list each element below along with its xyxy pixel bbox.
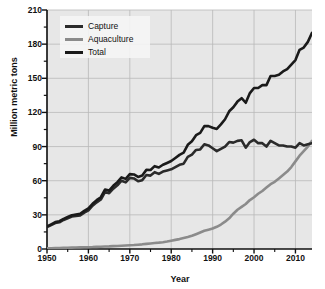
x-axis-label: Year (47, 274, 313, 284)
legend-swatch-total (65, 51, 83, 54)
legend-swatch-aquaculture (65, 38, 83, 41)
legend-item-aquaculture: Aquaculture (65, 33, 146, 45)
legend-item-total: Total (65, 46, 146, 58)
x-tick-1970: 1970 (120, 253, 139, 263)
legend-item-capture: Capture (65, 20, 146, 32)
x-tick-1980: 1980 (162, 253, 181, 263)
x-tick-2000: 2000 (245, 253, 264, 263)
x-tick-1990: 1990 (203, 253, 222, 263)
legend-label-aquaculture: Aquaculture (88, 34, 133, 44)
x-tick-2010: 2010 (286, 253, 305, 263)
plot-area (0, 0, 325, 289)
legend-label-capture: Capture (88, 21, 118, 31)
legend-swatch-capture (65, 25, 83, 28)
legend-label-total: Total (88, 47, 106, 57)
chart-legend: Capture Aquaculture Total (60, 16, 150, 58)
x-tick-1960: 1960 (79, 253, 98, 263)
x-tick-1950: 1950 (38, 253, 57, 263)
chart-container: Million metric tons 0306090120150180210 … (0, 0, 325, 289)
